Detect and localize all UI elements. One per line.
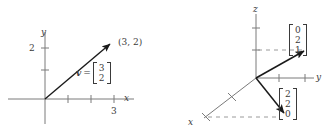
matrix-cell-v-2: 2	[99, 73, 105, 83]
matrix-cell-b-2: 2	[285, 99, 291, 109]
x-axis-label-3d: x	[188, 118, 193, 127]
y-axis-label-3d: y	[316, 73, 321, 82]
equals-sign-2d: =	[83, 69, 91, 78]
matrix-column: 0 2 1	[293, 24, 303, 56]
matrix-bracket-right	[107, 62, 111, 84]
y-axis-label-2d: y	[41, 28, 46, 37]
matrix-cell-a-2: 2	[295, 35, 301, 45]
vector-220-label: 2 2 0	[279, 88, 297, 120]
matrix-bracket-right	[293, 88, 297, 120]
vector-220-matrix: 2 2 0	[279, 88, 297, 120]
z-axis-label-3d: z	[253, 5, 258, 14]
matrix-cell-b-3: 0	[285, 109, 291, 119]
matrix-cell-b-1: 2	[285, 89, 291, 99]
vector-021-matrix: 0 2 1	[289, 24, 307, 56]
x-axis-line-3d	[204, 78, 256, 118]
x-tick-label-3: 3	[111, 107, 117, 116]
two-dimensional-vector-plot: x y 2 3 (3, 2) v = 3 2	[0, 0, 166, 140]
matrix-column: 3 2	[97, 62, 107, 84]
vector-v-matrix: 3 2	[93, 62, 111, 84]
matrix-cell-a-3: 1	[295, 45, 301, 55]
point-label-3-2: (3, 2)	[118, 38, 142, 47]
matrix-column: 2 2 0	[283, 88, 293, 120]
y-tick-label-2: 2	[29, 44, 35, 53]
matrix-cell-a-1: 0	[295, 25, 301, 35]
matrix-bracket-right	[303, 24, 307, 56]
three-dimensional-vector-plot: z y x 0 2 1 2 2 0	[166, 0, 332, 140]
vector-v-name: v	[76, 69, 81, 78]
x-axis-label-2d: x	[124, 94, 129, 103]
vector-021-label: 0 2 1	[289, 24, 307, 56]
matrix-cell-v-1: 3	[99, 63, 105, 73]
vector-figure: x y 2 3 (3, 2) v = 3 2	[0, 0, 332, 140]
vector-v-label: v = 3 2	[76, 62, 111, 84]
